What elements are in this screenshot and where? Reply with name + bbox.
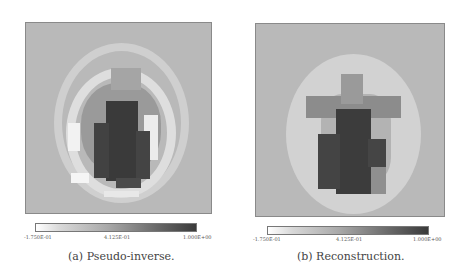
colorbar-b-max-label: 1.000E+00 — [413, 236, 442, 242]
reconstruction-image — [255, 23, 445, 217]
stem-block — [341, 74, 363, 104]
colorbar-a-mid-label: 4.125E-01 — [104, 234, 130, 240]
colorbar-a-max-label: 1.000E+00 — [183, 234, 212, 240]
caption-a: (a) Pseudo-inverse. — [68, 250, 175, 263]
colorbar-b — [267, 226, 429, 235]
colorbar-a — [35, 223, 197, 232]
dark-core-right — [368, 139, 386, 167]
caption-b: (b) Reconstruction. — [297, 250, 405, 263]
dark-core — [336, 109, 371, 194]
pseudo-inverse-image — [25, 22, 212, 214]
colorbar-a-min-label: -1.750E-01 — [24, 234, 52, 240]
dark-core-right — [136, 131, 150, 179]
panel-b: -1.750E-01 4.125E-01 1.000E+00 (b) Recon… — [240, 0, 469, 279]
dark-core-bottom — [116, 178, 141, 188]
dark-core — [106, 101, 138, 181]
dark-core-left — [94, 123, 109, 178]
highlight-bottom — [104, 191, 139, 197]
highlight-bottom-left — [71, 173, 89, 183]
highlight-left — [68, 123, 80, 151]
panel-a: -1.750E-01 4.125E-01 1.000E+00 (a) Pseud… — [0, 0, 240, 279]
dark-core-left — [318, 134, 340, 189]
top-patch — [111, 68, 141, 90]
colorbar-b-mid-label: 4.125E-01 — [336, 236, 362, 242]
colorbar-b-min-label: -1.750E-01 — [253, 236, 281, 242]
